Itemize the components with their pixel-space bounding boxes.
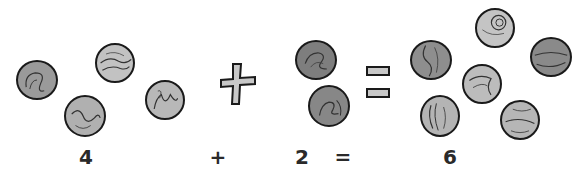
marble [500,100,540,140]
marble [530,37,572,77]
equals-symbol-drawing [365,65,391,101]
marble [410,40,452,80]
marble [462,64,502,104]
count-label-left: 4 [79,145,93,169]
marble [64,95,106,137]
marble [475,8,515,48]
marble [145,80,185,120]
marble [420,95,460,137]
count-label-middle: 2 [295,145,309,169]
marble [95,43,135,83]
plus-label: + [210,145,227,169]
marble [308,85,350,127]
plus-symbol-drawing [219,62,257,106]
marble [16,60,58,100]
equals-label: = [335,145,352,169]
count-label-result: 6 [443,145,457,169]
marble [295,40,337,80]
